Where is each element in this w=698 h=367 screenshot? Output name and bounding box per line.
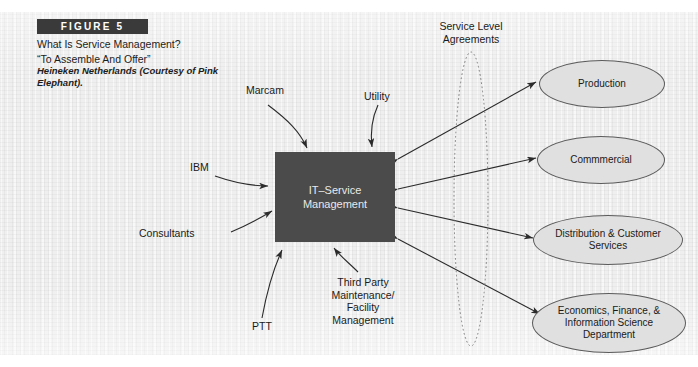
sla-overlay-layer xyxy=(0,0,698,367)
service-level-agreements-ellipse xyxy=(454,52,488,346)
figure-canvas: FIGURE 5 What Is Service Management? “To… xyxy=(0,0,698,367)
